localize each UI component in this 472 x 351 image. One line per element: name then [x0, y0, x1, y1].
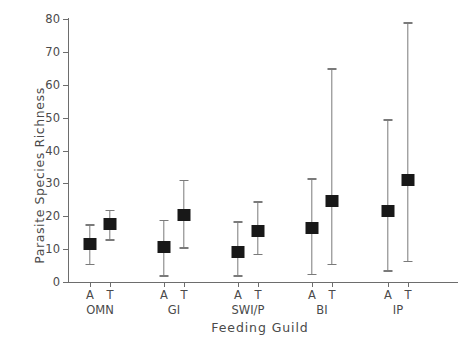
x-tick-mark — [312, 283, 313, 287]
error-bar-line — [331, 68, 332, 264]
x-tick-label-t: T — [180, 288, 187, 302]
x-tick-mark — [258, 283, 259, 287]
x-tick-mark — [164, 283, 165, 287]
error-bar-cap-lower — [234, 275, 243, 276]
error-bar-cap-lower — [86, 264, 95, 265]
error-bar-cap-upper — [234, 221, 243, 222]
x-tick-label-a: A — [384, 288, 392, 302]
marker-square — [104, 218, 117, 230]
x-axis-line — [68, 282, 458, 283]
guild-label-gi: GI — [168, 303, 180, 317]
x-tick-mark — [90, 283, 91, 287]
x-tick-label-t: T — [404, 288, 411, 302]
marker-square — [402, 174, 415, 186]
error-bar-cap-upper — [328, 68, 337, 69]
y-tick-label: 30 — [45, 176, 60, 190]
plot-area — [68, 19, 457, 282]
x-tick-label-t: T — [254, 288, 261, 302]
error-bar-cap-upper — [404, 22, 413, 23]
error-bar-cap-lower — [254, 254, 263, 255]
marker-square — [158, 241, 171, 253]
error-bar-cap-lower — [404, 261, 413, 262]
x-tick-mark — [238, 283, 239, 287]
x-tick-label-a: A — [160, 288, 168, 302]
y-tick-label: 80 — [45, 12, 60, 26]
marker-square — [84, 238, 97, 250]
error-bar-cap-upper — [160, 220, 169, 221]
x-tick-mark — [110, 283, 111, 287]
y-tick-label: 0 — [53, 275, 60, 289]
error-bar-cap-lower — [308, 274, 317, 275]
x-tick-label-t: T — [106, 288, 113, 302]
y-tick-label: 70 — [45, 45, 60, 59]
error-bar-cap-upper — [384, 119, 393, 120]
y-axis-tick-labels: 01020304050607080 — [0, 19, 60, 282]
error-bar-cap-lower — [328, 264, 337, 265]
error-bar-cap-upper — [180, 180, 189, 181]
x-axis-title: Feeding Guild — [60, 320, 460, 335]
error-bar-cap-upper — [254, 201, 263, 202]
x-tick-mark — [408, 283, 409, 287]
x-tick-label-a: A — [308, 288, 316, 302]
error-bar-cap-lower — [106, 239, 115, 240]
error-bar-line — [387, 119, 388, 270]
x-tick-mark — [388, 283, 389, 287]
guild-label-omn: OMN — [86, 303, 114, 317]
y-tick-label: 40 — [45, 144, 60, 158]
marker-square — [326, 195, 339, 207]
error-bar-line — [407, 22, 408, 260]
error-bar-cap-upper — [106, 210, 115, 211]
guild-label-swi-p: SWI/P — [232, 303, 265, 317]
error-bar-cap-upper — [86, 224, 95, 225]
x-tick-mark — [184, 283, 185, 287]
x-tick-label-a: A — [234, 288, 242, 302]
guild-label-bi: BI — [316, 303, 327, 317]
marker-square — [306, 222, 319, 234]
error-bar-cap-lower — [180, 247, 189, 248]
error-bar-cap-lower — [160, 275, 169, 276]
marker-square — [382, 205, 395, 217]
guild-label-ip: IP — [393, 303, 403, 317]
error-bar-cap-lower — [384, 270, 393, 271]
y-tick-label: 60 — [45, 78, 60, 92]
marker-square — [252, 225, 265, 237]
chart-figure: Parasite Species Richness 01020304050607… — [0, 0, 472, 351]
x-tick-label-t: T — [328, 288, 335, 302]
x-tick-label-a: A — [86, 288, 94, 302]
marker-square — [232, 246, 245, 258]
x-tick-mark — [332, 283, 333, 287]
y-tick-label: 10 — [45, 242, 60, 256]
y-tick-label: 50 — [45, 111, 60, 125]
error-bar-cap-upper — [308, 178, 317, 179]
marker-square — [178, 209, 191, 221]
y-tick-label: 20 — [45, 209, 60, 223]
